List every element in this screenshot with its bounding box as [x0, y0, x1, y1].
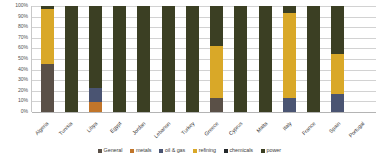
chart-legend: Generalmetalsoil & gasrefiningchemicalsp… — [0, 148, 379, 153]
legend-swatch-icon — [261, 149, 265, 153]
x-tick-column: Spain — [325, 118, 349, 152]
legend-item[interactable]: metals — [130, 148, 151, 153]
plot-wrapper: 100%90%80%70%60%50%40%30%20%10%0% Algeri… — [0, 6, 379, 118]
bar-segment[interactable] — [41, 9, 54, 64]
x-tick-label: Malta — [256, 121, 269, 134]
y-tick-label: 10% — [18, 99, 28, 104]
bar-stack[interactable] — [331, 6, 344, 112]
bar-segment[interactable] — [41, 64, 54, 112]
bar-segment[interactable] — [331, 6, 344, 54]
legend-label: metals — [136, 148, 152, 153]
bar-stack[interactable] — [113, 6, 126, 112]
y-tick-label: 20% — [18, 88, 28, 93]
bar-column[interactable] — [156, 6, 180, 112]
legend-swatch-icon — [193, 149, 197, 153]
bar-column[interactable] — [205, 6, 229, 112]
y-tick-label: 40% — [18, 67, 28, 72]
y-tick-label: 60% — [18, 46, 28, 51]
bar-segment[interactable] — [113, 6, 126, 112]
x-tick-label: Turkey — [181, 121, 196, 136]
bar-stack[interactable] — [162, 6, 175, 112]
legend-swatch-icon — [130, 149, 134, 153]
legend-label: power — [267, 148, 281, 153]
x-tick-label: Algeria — [35, 121, 50, 136]
bar-segment[interactable] — [89, 88, 102, 103]
bar-stack[interactable] — [210, 6, 223, 112]
x-tick-label: Libya — [86, 121, 99, 134]
y-axis: 100%90%80%70%60%50%40%30%20%10%0% — [0, 6, 30, 118]
bar-column[interactable] — [229, 6, 253, 112]
legend-item[interactable]: chemicals — [224, 148, 253, 153]
bar-group — [32, 6, 376, 112]
bar-stack[interactable] — [65, 6, 78, 112]
bar-column[interactable] — [83, 6, 107, 112]
bar-column[interactable] — [108, 6, 132, 112]
bar-stack[interactable] — [89, 6, 102, 112]
bar-stack[interactable] — [186, 6, 199, 112]
stacked-bar-chart: 100%90%80%70%60%50%40%30%20%10%0% Algeri… — [0, 0, 379, 168]
legend-swatch-icon — [224, 149, 228, 153]
bar-segment[interactable] — [234, 6, 247, 112]
bar-segment[interactable] — [89, 6, 102, 88]
bar-stack[interactable] — [355, 6, 368, 112]
legend-item[interactable]: General — [98, 148, 122, 153]
bar-column[interactable] — [132, 6, 156, 112]
bar-column[interactable] — [253, 6, 277, 112]
bar-column[interactable] — [301, 6, 325, 112]
x-tick-label: Spain — [328, 121, 341, 134]
legend-label: refining — [199, 148, 216, 153]
y-tick-label: 0% — [21, 109, 28, 114]
y-tick-label: 70% — [18, 35, 28, 40]
x-tick-label: Cyprus — [229, 121, 245, 137]
x-tick-column: Algeria — [34, 118, 58, 152]
bar-stack[interactable] — [137, 6, 150, 112]
bar-segment[interactable] — [162, 6, 175, 112]
bar-column[interactable] — [180, 6, 204, 112]
legend-label: chemicals — [229, 148, 253, 153]
x-tick-label: Lebanon — [153, 121, 171, 139]
bar-segment[interactable] — [210, 6, 223, 46]
bar-segment[interactable] — [89, 102, 102, 112]
bar-segment[interactable] — [259, 6, 272, 112]
bar-segment[interactable] — [137, 6, 150, 112]
legend-swatch-icon — [98, 149, 102, 153]
bar-column[interactable] — [35, 6, 59, 112]
gridline — [32, 112, 376, 113]
bar-stack[interactable] — [41, 6, 54, 112]
bar-stack[interactable] — [259, 6, 272, 112]
legend-label: oil & gas — [165, 148, 185, 153]
y-tick-label: 100% — [15, 3, 28, 8]
bar-segment[interactable] — [210, 98, 223, 112]
x-tick-label: Egypt — [109, 121, 122, 134]
legend-item[interactable]: oil & gas — [159, 148, 185, 153]
legend-label: General — [104, 148, 123, 153]
bar-stack[interactable] — [234, 6, 247, 112]
bar-segment[interactable] — [331, 94, 344, 112]
bar-segment[interactable] — [186, 6, 199, 112]
legend-item[interactable]: refining — [193, 148, 216, 153]
y-tick-label: 50% — [18, 56, 28, 61]
bar-column[interactable] — [59, 6, 83, 112]
legend-swatch-icon — [159, 149, 163, 153]
bar-segment[interactable] — [307, 6, 320, 112]
bar-segment[interactable] — [65, 6, 78, 112]
bar-column[interactable] — [350, 6, 374, 112]
bar-column[interactable] — [277, 6, 301, 112]
x-tick-label: Jordan — [132, 121, 147, 136]
x-tick-label: Italy — [282, 121, 293, 132]
bar-column[interactable] — [326, 6, 350, 112]
bar-segment[interactable] — [283, 6, 296, 13]
legend-item[interactable]: power — [261, 148, 281, 153]
y-tick-label: 90% — [18, 14, 28, 19]
plot-area — [31, 6, 376, 112]
bar-segment[interactable] — [331, 54, 344, 94]
x-tick-label: France — [302, 121, 317, 136]
y-tick-label: 80% — [18, 25, 28, 30]
bar-stack[interactable] — [283, 6, 296, 112]
x-tick-label: Portugal — [348, 121, 366, 139]
bar-segment[interactable] — [283, 13, 296, 98]
x-tick-column: France — [301, 118, 325, 152]
bar-stack[interactable] — [307, 6, 320, 112]
bar-segment[interactable] — [283, 98, 296, 112]
bar-segment[interactable] — [210, 46, 223, 98]
